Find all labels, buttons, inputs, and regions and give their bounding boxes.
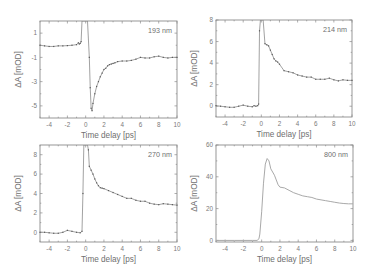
y-axis-label: ΔA [mOD]	[14, 51, 23, 87]
y-tick-label: -5	[31, 102, 37, 109]
data-point	[131, 60, 132, 61]
data-point	[105, 68, 106, 69]
data-point	[272, 54, 273, 55]
data-point	[100, 187, 101, 188]
y-tick-label: 6	[33, 170, 37, 177]
data-point	[292, 72, 293, 73]
data-point	[39, 232, 40, 233]
data-point	[329, 78, 330, 79]
data-point	[324, 79, 325, 80]
data-point	[273, 58, 274, 59]
y-tick-label: 20	[206, 205, 214, 212]
data-point	[89, 166, 90, 167]
data-point	[140, 57, 141, 58]
data-point	[92, 103, 93, 104]
data-point	[44, 45, 45, 46]
data-point	[39, 45, 40, 46]
x-tick-label: 4	[296, 120, 300, 127]
y-axis-label: ΔA [mOD]	[14, 175, 23, 211]
data-point	[96, 182, 97, 183]
panel-label: 800 nm	[324, 150, 348, 159]
x-axis-label: Time delay [ps]	[256, 130, 311, 139]
y-tick-label: 60	[206, 141, 214, 148]
data-point	[255, 106, 256, 107]
data-point	[80, 43, 81, 44]
data-point	[220, 106, 221, 107]
data-point	[257, 105, 258, 106]
panel-label: 214 nm	[323, 25, 347, 34]
data-point	[80, 232, 81, 233]
data-point	[333, 79, 334, 80]
data-point	[315, 79, 316, 80]
data-point	[76, 232, 77, 233]
y-tick-label: -3	[31, 78, 37, 85]
x-tick-label: -2	[65, 245, 71, 252]
data-point	[103, 69, 104, 70]
data-point	[62, 232, 63, 233]
x-tick-label: -4	[46, 121, 52, 128]
axes-frame	[40, 21, 177, 118]
data-point	[82, 193, 83, 194]
x-tick-label: 8	[157, 245, 161, 252]
data-point	[91, 108, 92, 109]
data-point	[253, 105, 254, 106]
data-point	[320, 79, 321, 80]
data-point	[53, 46, 54, 47]
y-tick-label: 0	[209, 102, 213, 109]
panel-label: 193 nm	[148, 26, 172, 35]
data-point	[158, 204, 159, 205]
data-point	[279, 64, 280, 65]
x-tick-label: 2	[278, 245, 282, 252]
data-point	[158, 56, 159, 57]
data-point	[229, 107, 230, 108]
data-point	[88, 149, 89, 150]
data-point	[176, 57, 177, 58]
x-tick-label: -4	[222, 120, 228, 127]
data-point	[91, 170, 92, 171]
y-tick-label: 8	[33, 151, 37, 158]
data-point	[224, 106, 225, 107]
axes-frame	[216, 20, 352, 117]
data-point	[144, 201, 145, 202]
data-point	[238, 106, 239, 107]
x-tick-label: 8	[333, 245, 337, 252]
data-point	[302, 75, 303, 76]
x-tick-label: 0	[84, 121, 88, 128]
x-tick-label: 2	[102, 245, 106, 252]
axes-frame	[40, 145, 177, 242]
data-point	[91, 110, 92, 111]
data-point	[266, 44, 267, 45]
data-point	[258, 103, 259, 104]
data-point	[78, 42, 79, 43]
data-point	[96, 86, 97, 87]
y-tick-label: 40	[206, 173, 214, 180]
data-point	[58, 45, 59, 46]
data-point	[176, 205, 177, 206]
data-point	[277, 61, 278, 62]
data-point	[117, 194, 118, 195]
data-point	[172, 204, 173, 205]
x-tick-label: 6	[139, 245, 143, 252]
data-point	[268, 45, 269, 46]
data-point	[107, 65, 108, 66]
data-point	[270, 50, 271, 51]
data-point	[109, 64, 110, 65]
data-point	[90, 87, 91, 88]
data-point	[163, 203, 164, 204]
data-point	[126, 60, 127, 61]
data-point	[252, 106, 253, 107]
data-point	[81, 41, 82, 42]
data-point	[100, 76, 101, 77]
x-tick-label: 0	[260, 120, 264, 127]
data-point	[135, 59, 136, 60]
data-point	[98, 81, 99, 82]
data-point	[117, 61, 118, 62]
data-point	[167, 204, 168, 205]
data-point	[49, 46, 50, 47]
data-point	[215, 105, 216, 106]
x-axis-label: Time delay [ps]	[81, 131, 136, 140]
panel-800nm: -4-202468100204060800 nmTime delay [ps]Δ…	[190, 141, 357, 263]
data-point	[53, 233, 54, 234]
y-tick-label: 4	[33, 190, 37, 197]
data-point	[154, 204, 155, 205]
